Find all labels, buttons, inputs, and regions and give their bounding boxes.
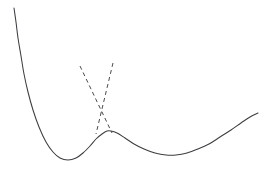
figure-root <box>0 0 272 171</box>
curve-plot <box>0 0 272 171</box>
